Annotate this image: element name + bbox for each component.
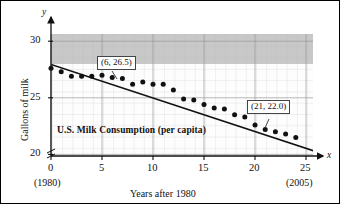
data-point xyxy=(293,135,298,140)
data-point xyxy=(171,87,176,92)
data-point xyxy=(79,74,84,79)
x-tick-label-5: 5 xyxy=(99,162,104,173)
data-point xyxy=(89,74,94,79)
figure-frame: 30 25 20 0 5 10 15 20 25 (1980) (2005) y… xyxy=(0,0,340,204)
data-point xyxy=(100,73,105,78)
x-tick-label-25: 25 xyxy=(300,162,311,173)
x-tick-label-10: 10 xyxy=(147,162,158,173)
x-tick-label-0: 0 xyxy=(48,162,53,173)
shaded-upper-band xyxy=(51,34,313,64)
x-sublabel-2005: (2005) xyxy=(286,177,313,188)
y-tick-label-30: 30 xyxy=(30,34,41,45)
y-tick-label-25: 25 xyxy=(30,91,41,102)
data-point xyxy=(120,76,125,81)
data-point xyxy=(242,115,247,120)
y-axis-title: Gallons of milk xyxy=(19,78,30,141)
data-point xyxy=(283,132,288,137)
callout-point-a: (6, 26.5) xyxy=(97,56,136,70)
x-axis-title: Years after 1980 xyxy=(130,188,196,199)
data-point xyxy=(202,102,207,107)
data-point xyxy=(59,69,64,74)
data-point xyxy=(49,66,54,71)
data-point xyxy=(130,82,135,87)
data-point xyxy=(222,107,227,112)
y-tick-label-20: 20 xyxy=(30,147,41,158)
data-point xyxy=(181,96,186,101)
x-sublabel-1980: (1980) xyxy=(34,177,61,188)
chart-inner-title: U.S. Milk Consumption (per capita) xyxy=(57,125,206,135)
x-tick-label-20: 20 xyxy=(249,162,260,173)
x-axis-variable-label: x xyxy=(327,150,331,160)
data-point xyxy=(110,75,115,80)
data-point xyxy=(273,129,278,134)
data-point xyxy=(69,74,74,79)
data-point xyxy=(212,105,217,110)
data-point xyxy=(253,122,258,127)
data-point xyxy=(151,82,156,87)
y-axis-variable-label: y xyxy=(42,7,46,17)
data-point xyxy=(191,98,196,103)
x-tick-label-15: 15 xyxy=(198,162,209,173)
callout-point-b: (21, 22.0) xyxy=(247,100,290,114)
data-point xyxy=(161,82,166,87)
data-point xyxy=(232,112,237,117)
data-point xyxy=(140,79,145,84)
